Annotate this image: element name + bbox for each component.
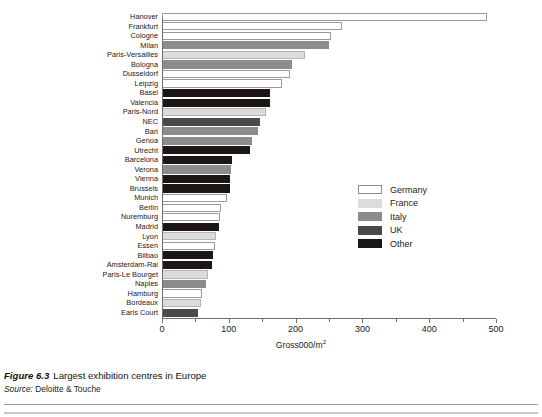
bar — [162, 137, 252, 145]
bar-track — [162, 289, 202, 297]
x-axis-label-text: Gross000/m — [276, 340, 323, 350]
bar — [162, 223, 219, 231]
bar-row: Milan — [0, 41, 542, 51]
bar-track — [162, 165, 231, 173]
x-tick-minor — [463, 319, 464, 322]
bar-track — [162, 156, 232, 164]
bar — [162, 118, 260, 126]
legend-swatch — [358, 185, 382, 194]
bar-row: Utrecht — [0, 146, 542, 156]
bar-track — [162, 127, 258, 135]
bar — [162, 165, 231, 173]
bar-track — [162, 137, 252, 145]
bar-row: Valencia — [0, 98, 542, 108]
bar-track — [162, 13, 487, 21]
bar-row: Paris-Versailles — [0, 50, 542, 60]
bar-category-label: Milan — [2, 41, 162, 51]
legend-swatch — [358, 239, 382, 248]
bar-track — [162, 251, 213, 259]
bar-row: Hamburg — [0, 289, 542, 299]
bar-track — [162, 261, 212, 269]
bar-category-label: Basel — [2, 88, 162, 98]
x-axis-label: Gross000/m2 — [0, 338, 542, 350]
bar — [162, 309, 198, 317]
bar — [162, 13, 487, 21]
bar-category-label: Valencia — [2, 98, 162, 108]
legend-item: France — [358, 197, 468, 211]
bar-category-label: Earls Court — [2, 308, 162, 318]
legend-item: Germany — [358, 183, 468, 197]
bar-row: Bilbao — [0, 251, 542, 261]
bar-category-label: Lyon — [2, 232, 162, 242]
bar-category-label: Paris-Versailles — [2, 50, 162, 60]
source-value: Deloitte & Touche — [35, 384, 101, 394]
legend-label: Italy — [390, 212, 407, 222]
legend-swatch — [358, 226, 382, 235]
x-axis-label-superscript: 2 — [323, 338, 326, 345]
bar-track — [162, 194, 227, 202]
bar-row: Paris-Nord — [0, 107, 542, 117]
bar-row: Basel — [0, 88, 542, 98]
x-tick-label: 300 — [355, 324, 370, 334]
bar-track — [162, 22, 342, 30]
bar-row: Genoa — [0, 136, 542, 146]
legend-label: Other — [390, 239, 413, 249]
bar — [162, 70, 290, 78]
bar-row: Verona — [0, 165, 542, 175]
legend-item: UK — [358, 224, 468, 238]
bar-category-label: Paris-Le Bourget — [2, 270, 162, 280]
bar-category-label: Dusseldorf — [2, 69, 162, 79]
bar-category-label: Barcelona — [2, 155, 162, 165]
x-tick-label: 500 — [488, 324, 503, 334]
bar-track — [162, 32, 331, 40]
bar-category-label: Bologna — [2, 60, 162, 70]
legend-item: Italy — [358, 210, 468, 224]
x-tick — [229, 319, 230, 323]
bar-row: Cologne — [0, 31, 542, 41]
bar-row: Naples — [0, 279, 542, 289]
x-tick — [362, 319, 363, 323]
bar-track — [162, 79, 282, 87]
bar — [162, 89, 270, 97]
caption-source-line: Source: Deloitte & Touche — [4, 383, 538, 395]
bar-category-label: Nuremburg — [2, 212, 162, 222]
bar-row: Hanover — [0, 12, 542, 22]
caption: Figure 6.3Largest exhibition centres in … — [4, 369, 538, 395]
figure-6-3: HanoverFrankfurtCologneMilanParis-Versai… — [0, 0, 542, 417]
bar-row: Amsterdam-Rai — [0, 260, 542, 270]
bar — [162, 79, 282, 87]
y-axis-line — [162, 18, 163, 318]
divider-rule-bottom — [4, 412, 538, 414]
bar-track — [162, 108, 266, 116]
bar — [162, 32, 331, 40]
bar-category-label: Verona — [2, 165, 162, 175]
bar-row: Barcelona — [0, 155, 542, 165]
bar-track — [162, 223, 219, 231]
bar-track — [162, 99, 270, 107]
bar-category-label: Genoa — [2, 136, 162, 146]
x-tick-label: 100 — [221, 324, 236, 334]
bar-row: Leipzig — [0, 79, 542, 89]
legend-swatch — [358, 212, 382, 221]
bar — [162, 146, 250, 154]
bar — [162, 51, 305, 59]
bar — [162, 213, 220, 221]
bar-category-label: Vienna — [2, 174, 162, 184]
bar-category-label: Brussels — [2, 184, 162, 194]
bar — [162, 251, 213, 259]
x-tick-minor — [329, 319, 330, 322]
bar-series-container: HanoverFrankfurtCologneMilanParis-Versai… — [0, 12, 542, 318]
bar-track — [162, 213, 220, 221]
bar — [162, 289, 202, 297]
chart-legend: GermanyFranceItalyUKOther — [358, 183, 468, 251]
bar — [162, 242, 215, 250]
bar-category-label: Hamburg — [2, 289, 162, 299]
bar-category-label: Bari — [2, 127, 162, 137]
bar — [162, 299, 201, 307]
bar — [162, 184, 230, 192]
bar — [162, 60, 292, 68]
bar-row: Frankfurt — [0, 22, 542, 32]
bar — [162, 22, 342, 30]
chart-plot-area: HanoverFrankfurtCologneMilanParis-Versai… — [0, 12, 542, 312]
divider-rule-top — [4, 404, 538, 405]
